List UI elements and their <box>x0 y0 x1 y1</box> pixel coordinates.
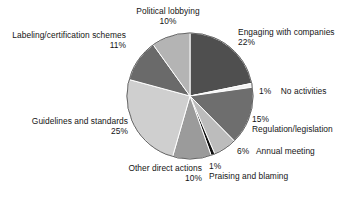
label-regulation-legislation: 15% Regulation/legislation <box>252 114 356 134</box>
label-engaging-with-companies: Engaging with companies 22% <box>238 27 356 47</box>
label-regulation-legislation-pct: 15% <box>252 114 356 124</box>
label-no-activities: 1% No activities <box>259 86 355 96</box>
label-other-direct-actions: Other direct actions 10% <box>84 163 202 183</box>
pie-chart: Political lobbying 10% Labeling/certific… <box>0 0 357 198</box>
label-no-activities-name: No activities <box>281 86 327 96</box>
label-political-lobbying: Political lobbying 10% <box>108 6 228 26</box>
label-engaging-with-companies-name: Engaging with companies <box>238 27 335 37</box>
label-labeling-certification-schemes: Labeling/certification schemes 11% <box>2 30 126 50</box>
pie-slices <box>127 33 253 159</box>
label-political-lobbying-name: Political lobbying <box>136 6 199 16</box>
label-praising-and-blaming-pct: 1% <box>209 161 335 171</box>
label-no-activities-pct: 1% <box>259 86 271 96</box>
label-praising-and-blaming: 1% Praising and blaming <box>209 161 335 181</box>
label-labeling-certification-schemes-pct: 11% <box>2 40 126 50</box>
label-annual-meeting: 6% Annual meeting <box>237 146 355 156</box>
label-annual-meeting-name: Annual meeting <box>256 146 315 156</box>
label-political-lobbying-pct: 10% <box>108 16 228 26</box>
label-engaging-with-companies-pct: 22% <box>238 37 356 47</box>
label-other-direct-actions-pct: 10% <box>84 173 202 183</box>
label-labeling-certification-schemes-name: Labeling/certification schemes <box>12 30 126 40</box>
label-guidelines-and-standards-name: Guidelines and standards <box>32 116 128 126</box>
label-guidelines-and-standards-pct: 25% <box>0 126 128 136</box>
label-regulation-legislation-name: Regulation/legislation <box>252 124 356 134</box>
label-praising-and-blaming-name: Praising and blaming <box>209 171 335 181</box>
label-other-direct-actions-name: Other direct actions <box>128 163 202 173</box>
label-annual-meeting-pct: 6% <box>237 146 249 156</box>
label-guidelines-and-standards: Guidelines and standards 25% <box>0 116 128 136</box>
